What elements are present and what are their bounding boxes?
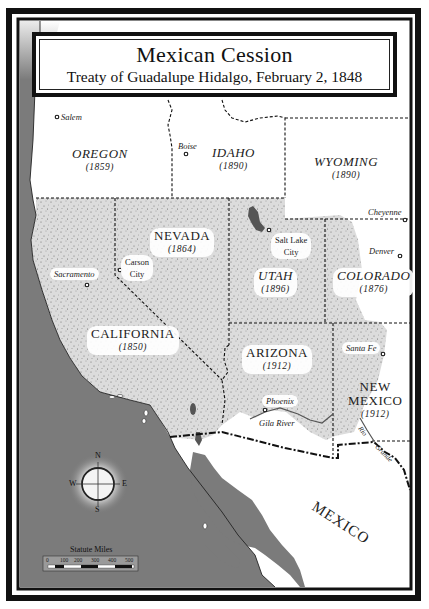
salt-lake-dot: [267, 228, 271, 232]
scale-tick-300: 300: [91, 557, 99, 563]
compass-s: S: [95, 505, 99, 514]
state-label-arizona: ARIZONA (1912): [242, 345, 312, 374]
city-label-sacramento: Sacramento: [50, 268, 99, 280]
scale-tick-100: 100: [60, 557, 68, 563]
city-label-denver: Denver: [369, 246, 394, 256]
scale-tick-400: 400: [108, 557, 116, 563]
state-label-idaho: IDAHO (1890): [212, 146, 255, 173]
city-label-santa-fe: Santa Fe: [342, 342, 380, 354]
city-label-cheyenne: Cheyenne: [368, 207, 402, 217]
state-label-wyoming: WYOMING (1890): [314, 155, 378, 182]
map-body: [20, 21, 410, 587]
state-label-nevada: NEVADA (1864): [150, 228, 214, 257]
scale-tick-0: 0: [46, 557, 49, 563]
city-label-boise: Boise: [178, 141, 197, 151]
scale-tick-200: 200: [74, 557, 82, 563]
scale-title: Statute Miles: [70, 545, 112, 554]
state-label-oregon: OREGON (1859): [72, 147, 128, 174]
city-label-salem: Salem: [61, 112, 82, 122]
phoenix-dot: [263, 408, 267, 412]
state-label-utah: UTAH (1896): [254, 268, 297, 297]
map-subtitle: Treaty of Guadalupe Hidalgo, February 2,…: [67, 67, 363, 87]
state-label-colorado: COLORADO (1876): [333, 268, 414, 297]
state-label-new-mexico: NEW MEXICO (1912): [348, 380, 402, 421]
title-box: Mexican Cession Treaty of Guadalupe Hida…: [32, 32, 397, 97]
cheyenne-dot: [403, 218, 407, 222]
city-label-carson-city: Carson City: [121, 255, 153, 281]
city-label-phoenix: Phoenix: [262, 395, 298, 407]
boise-dot: [184, 152, 188, 156]
river-label-gila: Gila River: [259, 418, 295, 428]
salton-sea: [190, 403, 196, 415]
compass-e: E: [122, 479, 127, 488]
denver-dot: [398, 254, 402, 258]
city-label-salt-lake-city: Salt Lake City: [271, 233, 311, 259]
map-title: Mexican Cession: [136, 43, 293, 67]
sacramento-dot: [85, 283, 89, 287]
scale-tick-500: 500: [125, 557, 133, 563]
compass-n: N: [95, 451, 101, 460]
salem-dot: [55, 115, 59, 119]
compass-w: W: [69, 479, 77, 488]
state-label-california: CALIFORNIA (1850): [87, 326, 179, 355]
santa-fe-dot: [381, 352, 385, 356]
